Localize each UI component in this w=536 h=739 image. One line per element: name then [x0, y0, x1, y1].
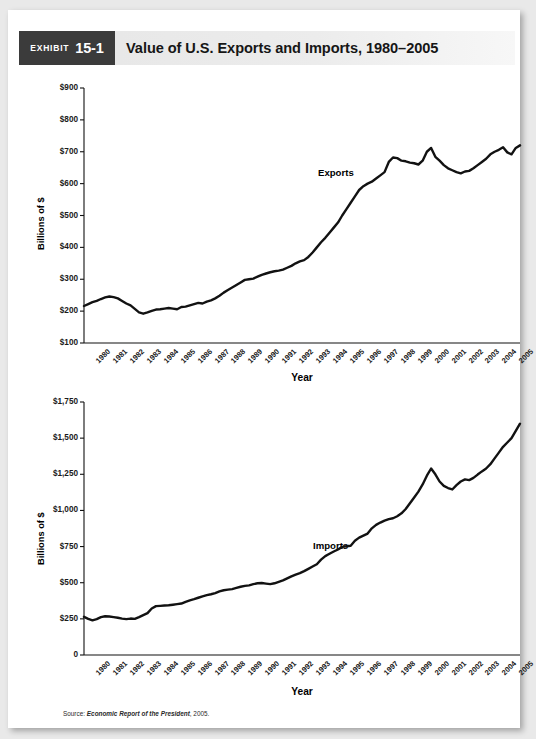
- exhibit-sheet: Exhibit 15-1 Value of U.S. Exports and I…: [8, 10, 520, 728]
- imports-y-tick-label: 0: [32, 650, 78, 659]
- imports-y-tick-label: $750: [32, 542, 78, 551]
- chart-imports-plot: [8, 10, 536, 739]
- source-suffix: , 2005.: [190, 710, 210, 717]
- imports-y-tick-label: $1,000: [32, 505, 78, 514]
- source-prefix: Source:: [63, 710, 85, 717]
- imports-y-tick-label: $1,750: [32, 397, 78, 406]
- imports-y-tick-label: $1,500: [32, 433, 78, 442]
- source-publication: Economic Report of the President: [87, 710, 190, 717]
- imports-y-tick-label: $500: [32, 578, 78, 587]
- source-note: Source: Economic Report of the President…: [63, 710, 209, 717]
- page-background: Exhibit 15-1 Value of U.S. Exports and I…: [0, 0, 536, 739]
- imports-y-tick-label: $250: [32, 614, 78, 623]
- imports-y-tick-label: $1,250: [32, 469, 78, 478]
